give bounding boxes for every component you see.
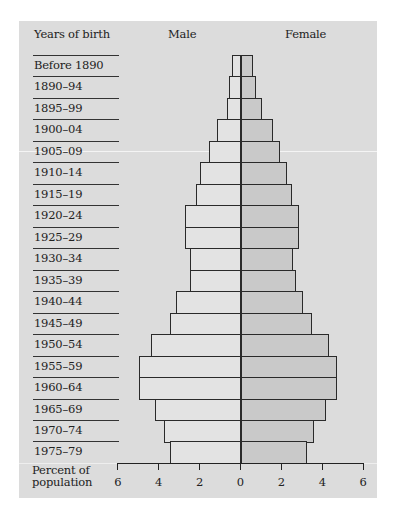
male-bar [170,441,241,464]
row-separator [33,270,119,271]
row-separator [33,227,119,228]
row-separator [33,119,119,120]
female-bar [241,55,253,78]
row-separator [33,55,119,56]
category-label: 1930–34 [34,251,82,265]
female-bar [241,441,307,464]
female-header: Female [285,27,326,41]
x-tick [363,463,364,470]
x-axis-label-line2: population [32,476,92,488]
row-separator [33,441,119,442]
x-tick-label: 6 [355,475,371,489]
row-separator [33,162,119,163]
row-separator [33,205,119,206]
category-label: 1945–49 [34,316,82,330]
category-label: 1910–14 [34,165,82,179]
x-tick-label: 2 [192,475,208,489]
x-tick-label: 0 [233,475,249,489]
category-label: 1970–74 [34,423,82,437]
female-bar [241,313,313,336]
x-tick [117,463,118,470]
x-tick [322,463,323,470]
row-separator [33,334,119,335]
x-tick [240,463,241,470]
female-bar [241,248,293,271]
row-separator [33,98,119,99]
female-bar [241,162,287,185]
male-bar [227,98,240,121]
center-axis-line [240,55,241,463]
female-bar [241,76,256,99]
female-bar [241,377,337,400]
female-bar [241,184,292,207]
category-label: 1920–24 [34,208,82,222]
category-label: 1900–04 [34,122,82,136]
category-label: 1935–39 [34,273,82,287]
x-axis-label: Percent of population [32,464,92,488]
male-bar [139,377,240,400]
male-bar [151,334,241,357]
row-separator [33,356,119,357]
male-header: Male [168,27,196,41]
male-bar [139,356,240,379]
male-bar [229,76,240,99]
x-tick [281,463,282,470]
male-bar [190,270,240,293]
category-label: 1975–79 [34,444,82,458]
male-bar [155,399,241,422]
male-bar [190,248,240,271]
row-separator [33,248,119,249]
category-label: Before 1890 [34,58,103,72]
category-label: 1960–64 [34,380,82,394]
row-separator [33,76,119,77]
male-bar [164,420,241,443]
row-separator [33,291,119,292]
row-separator [33,377,119,378]
female-bar [241,141,281,164]
male-bar [170,313,241,336]
years-of-birth-header: Years of birth [34,27,110,41]
category-label: 1905–09 [34,144,82,158]
row-separator [33,420,119,421]
male-bar [176,291,240,314]
female-bar [241,270,296,293]
female-bar [241,119,274,142]
row-separator [33,184,119,185]
category-label: 1965–69 [34,402,82,416]
male-bar [185,227,240,250]
x-tick-label: 4 [314,475,330,489]
male-bar [217,119,241,142]
female-bar [241,227,299,250]
category-label: 1895–99 [34,101,82,115]
x-tick-label: 2 [273,475,289,489]
x-tick [199,463,200,470]
female-bar [241,356,337,379]
male-bar [196,184,241,207]
male-bar [185,205,240,228]
category-label: 1955–59 [34,359,82,373]
male-bar [200,162,241,185]
category-label: 1940–44 [34,294,82,308]
row-separator [33,313,119,314]
female-bar [241,399,327,422]
x-tick [158,463,159,470]
female-bar [241,420,315,443]
x-tick-label: 4 [151,475,167,489]
female-bar [241,205,299,228]
female-bar [241,291,303,314]
x-tick-label: 6 [110,475,126,489]
row-separator [33,141,119,142]
male-bar [209,141,241,164]
category-label: 1915–19 [34,187,82,201]
category-label: 1925–29 [34,230,82,244]
row-separator [33,399,119,400]
category-label: 1890–94 [34,79,82,93]
female-bar [241,98,262,121]
female-bar [241,334,330,357]
category-label: 1950–54 [34,337,82,351]
